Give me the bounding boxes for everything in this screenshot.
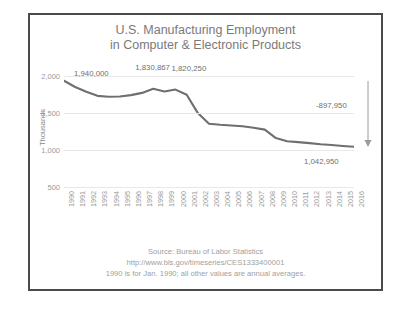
x-axis-tick: 2006: [245, 191, 254, 207]
x-axis-tick: 2010: [290, 191, 299, 207]
x-axis-tick: 1999: [167, 191, 176, 207]
footer-source: Source: Bureau of Labor Statistics: [30, 246, 381, 257]
gridline: [64, 187, 354, 188]
x-axis-tick: 1993: [100, 191, 109, 207]
x-axis-tick: 1991: [78, 191, 87, 207]
x-axis-tick: 1994: [112, 191, 121, 207]
chart-title-line1: U.S. Manufacturing Employment: [116, 23, 296, 37]
footer-note: 1990 is for Jan. 1990; all other values …: [30, 268, 381, 279]
x-axis-tick: 1997: [145, 191, 154, 207]
x-axis-tick: 2004: [223, 191, 232, 207]
x-axis-tick: 2000: [179, 191, 188, 207]
x-axis-tick: 2011: [301, 192, 310, 207]
footer-url: http://www.bls.gov/timeseries/CES1333400…: [30, 257, 381, 268]
y-axis-tick-labels: 5001,0001,5002,000: [30, 69, 62, 205]
chart-footer: Source: Bureau of Labor Statistics http:…: [30, 246, 381, 279]
x-axis-tick: 2015: [346, 191, 355, 207]
x-axis-tick: 2016: [357, 191, 366, 207]
y-axis-tick: 1,000: [41, 145, 60, 154]
x-axis-tick: 2008: [268, 191, 277, 207]
x-axis-tick: 2009: [279, 191, 288, 207]
employment-line-series: [64, 69, 354, 205]
chart-frame: U.S. Manufacturing Employment in Compute…: [28, 13, 383, 291]
x-axis-tick-labels: 1990199119921993199419951996199719981999…: [64, 207, 354, 247]
x-axis-tick: 2007: [257, 191, 266, 207]
callout-peak-2000: 1,820,250: [172, 64, 207, 73]
callout-peak-1998: 1,830,867: [135, 63, 170, 72]
callout-end-value: 1,042,950: [304, 157, 339, 166]
x-axis-tick: 2002: [201, 191, 210, 207]
x-axis-tick: 2005: [234, 191, 243, 207]
net-change-arrow-icon: [354, 81, 382, 147]
x-axis-tick: 1992: [89, 191, 98, 207]
x-axis-tick: 1995: [123, 191, 132, 207]
x-axis-tick: 2014: [335, 191, 344, 207]
callout-start-value: 1,940,000: [74, 69, 109, 78]
chart-title-line2: in Computer & Electronic Products: [30, 38, 381, 53]
callout-net-change: -897,950: [316, 101, 347, 110]
chart-title: U.S. Manufacturing Employment in Compute…: [30, 23, 381, 53]
y-axis-tick: 2,000: [41, 72, 60, 81]
plot-area: [64, 69, 354, 205]
x-axis-tick: 1990: [67, 191, 76, 207]
x-axis-tick: 2003: [212, 191, 221, 207]
gridline: [64, 113, 354, 114]
x-axis-tick: 1998: [156, 191, 165, 207]
x-axis-tick: 2001: [190, 191, 199, 207]
x-axis-tick: 1996: [134, 191, 143, 207]
x-axis-tick: 2012: [312, 191, 321, 207]
x-axis-tick: 2013: [324, 191, 333, 207]
y-axis-tick: 1,500: [41, 109, 60, 118]
gridline: [64, 150, 354, 151]
y-axis-tick: 500: [47, 182, 60, 191]
